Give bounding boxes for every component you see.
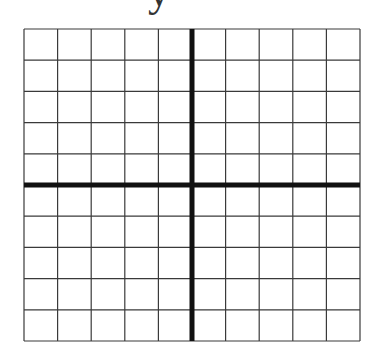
- axes: [24, 29, 360, 341]
- coordinate-grid: [0, 0, 375, 354]
